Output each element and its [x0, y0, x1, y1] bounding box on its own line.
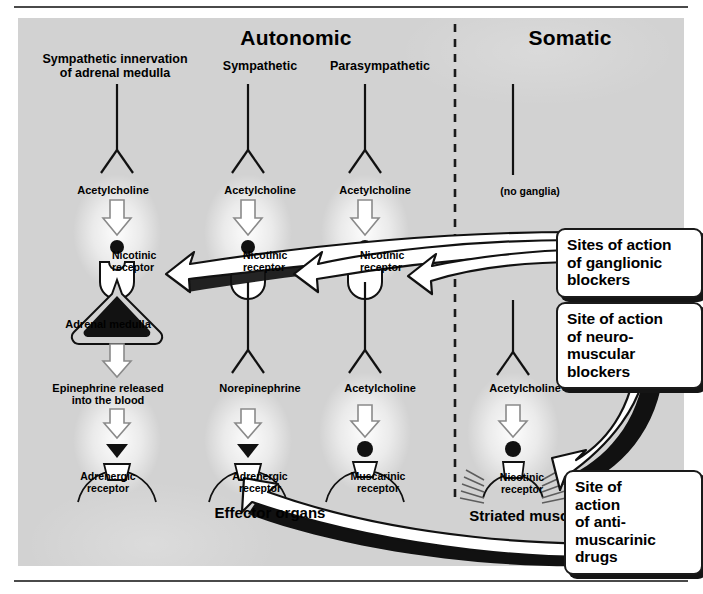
callout-neuromuscular-blockers: Site of action of neuro- muscular blocke… [556, 302, 703, 389]
callout-ganglionic-blockers: Sites of action of ganglionic blockers [556, 228, 703, 298]
label-acetylcholine-postganglionic-para: Acetylcholine [310, 382, 450, 394]
column-label-no-ganglia: (no ganglia) [460, 186, 600, 198]
label-nicotinic-receptor-sympathetic: Nicotinic receptor [243, 250, 315, 274]
label-adrenergic-receptor-adrenal: Adrenergic receptor [38, 471, 178, 495]
label-acetylcholine-sympathetic: Acetylcholine [195, 184, 325, 196]
label-nicotinic-receptor-adrenal: Nicotinic receptor [112, 250, 184, 274]
bottom-horizontal-rule [14, 580, 688, 582]
top-horizontal-rule [14, 6, 688, 8]
label-norepinephrine: Norepinephrine [195, 382, 325, 394]
callout-antimuscarinic-drugs: Site of action of anti- muscarinic drugs [564, 470, 703, 575]
header-autonomic: Autonomic [146, 26, 446, 50]
column-label-parasympathetic: Parasympathetic [310, 59, 450, 73]
column-label-sympathetic-adrenal: Sympathetic innervation of adrenal medul… [10, 52, 220, 80]
label-muscarinic-receptor: Muscarinic receptor [318, 471, 438, 495]
label-adrenal-medulla: Adrenal medulla [28, 318, 188, 330]
label-acetylcholine-parasympathetic: Acetylcholine [310, 184, 440, 196]
label-acetylcholine-adrenal: Acetylcholine [48, 184, 178, 196]
header-somatic: Somatic [455, 26, 685, 50]
label-nicotinic-receptor-parasympathetic: Nicotinic receptor [360, 250, 432, 274]
label-effector-organs: Effector organs [150, 505, 390, 522]
column-label-sympathetic: Sympathetic [195, 59, 325, 73]
label-epinephrine-released: Epinephrine released into the blood [28, 382, 188, 407]
label-adrenergic-receptor-sympathetic: Adrenergic receptor [200, 471, 320, 495]
